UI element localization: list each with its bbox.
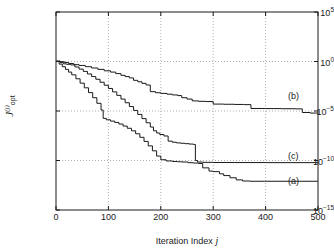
x-tick-label-0: 0 bbox=[53, 212, 58, 222]
series-label-c: (c) bbox=[288, 151, 299, 161]
gridlines bbox=[56, 12, 318, 210]
x-tick-label-400: 400 bbox=[258, 212, 273, 222]
y-axis-title-superscript: (j) bbox=[3, 105, 11, 112]
x-axis-title-symbol: j bbox=[215, 235, 218, 246]
y-axis-title: J(j)opt bbox=[3, 76, 23, 136]
y-tick-label-1e0: 100 bbox=[282, 56, 334, 68]
x-tick-label-500: 500 bbox=[310, 212, 325, 222]
x-tick-label-100: 100 bbox=[101, 212, 116, 222]
series-label-b: (b) bbox=[288, 91, 299, 101]
x-tick-label-200: 200 bbox=[153, 212, 168, 222]
y-tick-label-1e-15: 10−15 bbox=[282, 204, 334, 216]
y-tick-label-1e5: 105 bbox=[282, 6, 334, 18]
y-tick-label-1e-5: 10−5 bbox=[282, 105, 334, 117]
curve-b bbox=[56, 61, 318, 113]
y-axis-title-subscript: opt bbox=[9, 95, 16, 105]
curve-c bbox=[56, 61, 318, 162]
figure-semilogy-convergence: J(j)opt 105 100 10−5 10−10 10−15 0 100 2… bbox=[0, 0, 334, 252]
x-tick-label-300: 300 bbox=[206, 212, 221, 222]
curve-a bbox=[56, 62, 318, 182]
y-axis-title-symbol: J bbox=[3, 112, 15, 117]
x-axis-title: Iteration Index j bbox=[56, 235, 318, 246]
data-curves bbox=[56, 61, 318, 181]
series-label-a: (a) bbox=[288, 176, 299, 186]
x-axis-title-text: Iteration Index bbox=[156, 236, 213, 246]
